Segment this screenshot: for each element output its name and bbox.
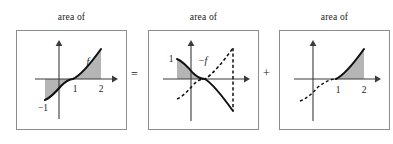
caption-panel-3: area of [279,12,390,22]
y-axis-arrow [310,40,317,46]
graph-panel-3: 1 2 [279,30,390,130]
y-axis-arrow [56,40,63,46]
curve-label-negative-f: −f [199,55,209,66]
tick-label-two: 2 [99,84,104,94]
tick-label-one: 1 [73,84,78,94]
x-axis-arrow [112,76,118,83]
plus-operator: + [263,67,270,79]
math-figure-area-decomposition: area of area of area of = + −1 1 2 f [0,0,393,144]
y-axis-arrow [188,40,195,46]
x-axis-arrow [244,76,250,83]
equals-operator: = [131,68,138,80]
tick-label-one: 1 [169,54,174,64]
tick-label-two: 2 [362,85,367,95]
panel-3-plot: 1 2 [280,31,389,129]
tick-label-one: 1 [336,85,341,95]
panel-1-plot: −1 1 2 f [17,31,126,129]
panel-2-plot: 1 −f [149,31,258,129]
caption-panel-2: area of [148,12,259,22]
graph-panel-2: 1 −f [148,30,259,130]
curve-f-dashed-segment [300,79,336,101]
graph-panel-1: −1 1 2 f [16,30,127,130]
caption-panel-1: area of [16,12,127,22]
x-axis-arrow [375,76,381,83]
tick-label-neg-one: −1 [38,103,48,113]
